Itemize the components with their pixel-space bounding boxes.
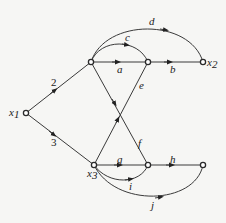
label-x3: x3 [86, 167, 98, 181]
gain-a: a [117, 63, 123, 75]
gain-2: 2 [51, 76, 57, 88]
node-n1 [88, 59, 93, 64]
gain-h: h [170, 153, 176, 165]
node-n2 [145, 59, 150, 64]
gain-f: f [138, 137, 143, 149]
gain-3: 3 [51, 136, 57, 148]
gain-d: d [149, 15, 155, 27]
node-x3 [91, 162, 96, 167]
gain-i: i [129, 180, 132, 192]
gain-e: e [139, 79, 144, 91]
label-x2: x2 [206, 56, 218, 70]
label-x1: x1 [8, 106, 19, 120]
edge-j [94, 165, 203, 198]
node-x1 [23, 110, 28, 115]
gain-j: j [149, 199, 154, 211]
node-n5 [200, 162, 205, 167]
gain-c: c [125, 31, 130, 43]
edge-3 [26, 113, 94, 165]
edge-i [94, 165, 148, 180]
signal-flow-graph: x1 x2 x3 2 3 a b c d e f g h i j [0, 0, 226, 223]
gain-g: g [117, 153, 123, 165]
node-n4 [145, 162, 150, 167]
node-x2 [200, 59, 205, 64]
gain-b: b [170, 63, 176, 75]
edge-2 [26, 62, 91, 113]
